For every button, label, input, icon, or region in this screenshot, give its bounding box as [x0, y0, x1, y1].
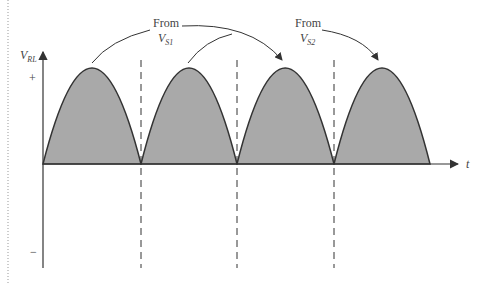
annotation-from-vs1: From VS1 — [153, 17, 179, 47]
y-axis-label: VRL — [20, 49, 37, 64]
annotation-arrows — [92, 26, 378, 63]
plus-label: + — [29, 72, 36, 84]
x-axis-label: t — [466, 158, 469, 170]
minus-label: − — [30, 246, 37, 258]
annotation-from-vs2: From VS2 — [295, 17, 321, 47]
waveform-diagram — [0, 0, 483, 285]
